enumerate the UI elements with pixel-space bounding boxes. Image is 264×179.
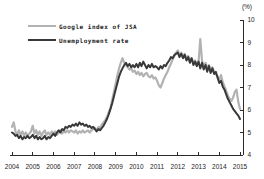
x-tick-label: 2007: [67, 163, 82, 170]
y-tick-label: 6: [248, 106, 252, 113]
x-tick-label: 2015: [233, 163, 248, 170]
x-tick-label: 2013: [191, 163, 206, 170]
legend-swatch-google-index: [28, 25, 56, 27]
x-tick-label: 2005: [25, 163, 40, 170]
y-tick-label: 9: [248, 39, 252, 46]
y-tick-label: 7: [248, 84, 252, 91]
y-tick-label: 8: [248, 61, 252, 68]
legend-item-google-index: Google index of JSA: [28, 21, 137, 31]
chart-figure: (%) Google index of JSA Unemployment rat…: [0, 0, 264, 179]
x-tick-label: 2004: [5, 163, 20, 170]
x-tick-label: 2006: [46, 163, 61, 170]
legend-label-unemployment-rate: Unemployment rate: [59, 37, 129, 44]
series-line-google-index-of-jsa: [12, 39, 240, 136]
y-tick-label: 4: [248, 151, 252, 158]
x-tick-label: 2009: [108, 163, 123, 170]
x-tick-label: 2014: [212, 163, 227, 170]
x-tick-label: 2011: [150, 163, 164, 170]
legend-item-unemployment-rate: Unemployment rate: [28, 35, 137, 45]
x-tick-label: 2010: [129, 163, 144, 170]
x-tick-label: 2012: [171, 163, 186, 170]
y-tick-label: 5: [248, 129, 252, 136]
x-tick-label: 2008: [88, 163, 103, 170]
legend-label-google-index: Google index of JSA: [59, 23, 137, 30]
legend-swatch-unemployment-rate: [28, 39, 56, 41]
legend: Google index of JSA Unemployment rate: [28, 21, 137, 45]
y-tick-label: 10: [248, 16, 256, 23]
